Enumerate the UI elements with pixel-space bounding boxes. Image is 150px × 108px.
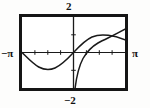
plot-canvas <box>22 17 125 88</box>
y-axis-min-label: −2 <box>64 95 76 106</box>
x-axis-min-label: −π <box>1 48 13 59</box>
graph-viewport: 2 −2 −π π <box>0 0 150 108</box>
y-axis-max-label: 2 <box>66 1 72 12</box>
plot-frame <box>19 14 128 91</box>
x-axis-max-label: π <box>132 48 138 59</box>
